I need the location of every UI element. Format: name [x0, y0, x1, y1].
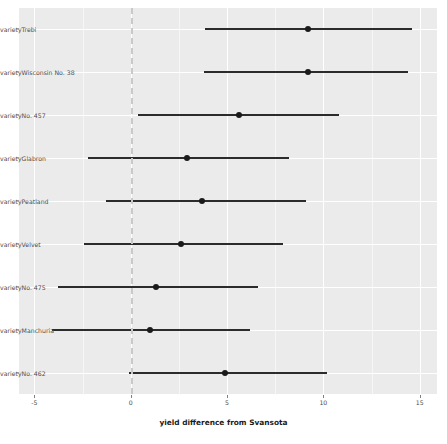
x-axis-tick: [227, 395, 228, 398]
x-axis-tick-label: 15: [405, 399, 435, 406]
estimate-point: [153, 284, 159, 290]
y-axis-tick: [16, 286, 19, 287]
y-axis-label-varietyno-462: varietyNo. 462: [0, 369, 14, 376]
y-axis-label-varietyglabron: varietyGlabron: [0, 155, 14, 162]
y-axis-tick: [16, 115, 19, 116]
estimate-point: [305, 69, 311, 75]
x-axis-tick: [323, 395, 324, 398]
y-axis-tick: [16, 243, 19, 244]
y-axis-tick: [16, 158, 19, 159]
y-axis-label-varietyno-475: varietyNo. 475: [0, 283, 14, 290]
y-axis-label-varietypeatland: varietyPeatland: [0, 198, 14, 205]
estimate-point: [199, 198, 205, 204]
forest-plot-chart: yield difference from Svansota varietyTr…: [0, 0, 447, 444]
x-axis-title: yield difference from Svansota: [0, 418, 447, 427]
y-axis-tick: [16, 201, 19, 202]
y-axis-tick: [16, 372, 19, 373]
x-axis-tick-label: 10: [308, 399, 338, 406]
x-axis-tick: [131, 395, 132, 398]
estimate-point: [222, 370, 228, 376]
y-axis-label-varietywisconsin-no-38: varietyWisconsin No. 38: [0, 69, 14, 76]
y-axis-tick: [16, 29, 19, 30]
x-axis-tick: [34, 395, 35, 398]
x-axis-tick-label: -5: [19, 399, 49, 406]
zero-reference-line: [131, 8, 133, 394]
y-axis-label-varietyvelvet: varietyVelvet: [0, 240, 14, 247]
x-axis-tick-label: 0: [116, 399, 146, 406]
estimate-point: [305, 26, 311, 32]
x-axis-tick: [420, 395, 421, 398]
y-axis-tick: [16, 329, 19, 330]
plot-panel: [19, 8, 437, 394]
x-axis-tick-label: 5: [212, 399, 242, 406]
estimate-point: [184, 155, 190, 161]
y-axis-tick: [16, 72, 19, 73]
y-axis-label-varietyno-457: varietyNo. 457: [0, 112, 14, 119]
y-axis-label-varietymanchuria: varietyManchuria: [0, 326, 14, 333]
y-axis-label-varietytrebi: varietyTrebi: [0, 26, 14, 33]
confidence-interval-line: [106, 200, 306, 202]
estimate-point: [147, 327, 153, 333]
estimate-point: [178, 241, 184, 247]
estimate-point: [236, 112, 242, 118]
